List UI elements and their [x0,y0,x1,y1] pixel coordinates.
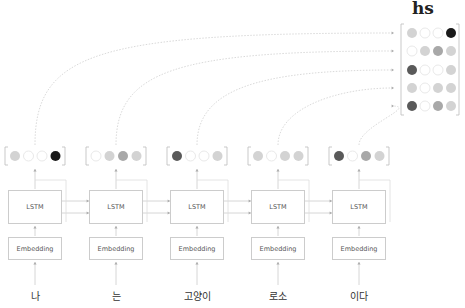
hidden-state-cell [24,151,34,161]
hs-matrix-cell [420,46,430,56]
hs-matrix-cell [420,28,430,38]
hidden-state-cell [186,151,196,161]
seq2seq-encoder-diagram [0,0,465,308]
hidden-state-cell [10,151,20,161]
hs-matrix-cell [446,83,456,93]
hidden-state-cell [334,151,344,161]
hs-matrix-cell [407,65,417,75]
input-token: 는 [86,288,146,303]
embedding-block: Embedding [89,237,143,260]
embedding-block: Embedding [251,237,305,260]
hidden-state-cell [199,151,209,161]
hs-matrix-cell [420,65,430,75]
embedding-block: Embedding [170,237,224,260]
hs-matrix-cell [420,101,430,111]
hidden-state-cell [213,151,223,161]
hs-matrix-cell [446,28,456,38]
hs-matrix-cell [446,65,456,75]
input-token: 고양이 [167,288,227,303]
hidden-state-cell [361,151,371,161]
input-token: 로소 [248,288,308,303]
hs-matrix-cell [407,101,417,111]
hidden-state-cell [118,151,128,161]
hidden-state-cell [375,151,385,161]
hs-matrix-cell [407,83,417,93]
input-token: 나 [5,288,65,303]
hidden-state-cell [91,151,101,161]
hs-matrix-cell [433,28,443,38]
hs-matrix-cell [407,46,417,56]
hs-matrix-cell [407,28,417,38]
hidden-state-cell [51,151,61,161]
hidden-state-cell [172,151,182,161]
lstm-block: LSTM [8,190,62,224]
hidden-state-cell [267,151,277,161]
lstm-block: LSTM [89,190,143,224]
hidden-state-cell [280,151,290,161]
hs-matrix-cell [420,83,430,93]
hs-matrix-cell [433,101,443,111]
hs-matrix-cell [446,101,456,111]
hidden-state-cell [253,151,263,161]
hidden-state-cell [348,151,358,161]
hs-matrix-cell [433,46,443,56]
embedding-block: Embedding [332,237,386,260]
hidden-state-cell [132,151,142,161]
hidden-state-cell [294,151,304,161]
hs-title: hs [412,0,434,18]
embedding-block: Embedding [8,237,62,260]
hs-matrix-cell [433,83,443,93]
hs-matrix-cell [446,46,456,56]
hidden-state-cell [37,151,47,161]
lstm-block: LSTM [170,190,224,224]
input-token: 이다 [329,288,389,303]
lstm-block: LSTM [332,190,386,224]
lstm-block: LSTM [251,190,305,224]
hs-matrix-cell [433,65,443,75]
hidden-state-cell [105,151,115,161]
